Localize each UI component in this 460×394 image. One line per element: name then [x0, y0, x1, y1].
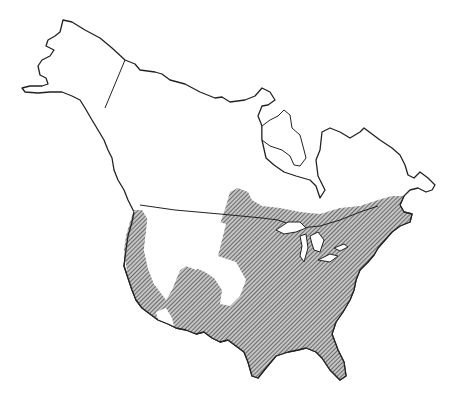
range-map [0, 0, 460, 394]
hudson-bay [262, 110, 306, 166]
